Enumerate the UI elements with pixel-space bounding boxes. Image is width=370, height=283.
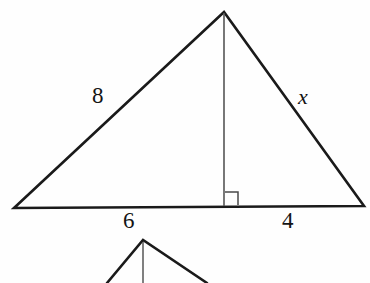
figure-background — [0, 0, 370, 283]
geometry-figure: 8 x 6 4 — [0, 0, 370, 283]
label-base-right-segment: 4 — [282, 209, 294, 232]
label-base-left-segment: 6 — [123, 209, 135, 232]
label-left-side: 8 — [92, 84, 104, 107]
triangle-diagram-svg — [0, 0, 370, 283]
label-right-side: x — [298, 86, 308, 108]
